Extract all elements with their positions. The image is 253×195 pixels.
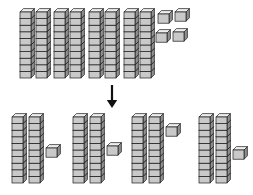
cube-front-face [105, 52, 116, 59]
cube-front-face [20, 25, 31, 32]
cube-front-face [36, 58, 47, 65]
cube-front-face [29, 170, 40, 177]
cube-front-face [105, 58, 116, 65]
cube-front-face [70, 12, 81, 19]
cube-front-face [36, 38, 47, 45]
cube-front-face [124, 19, 135, 26]
rod-segment [105, 9, 119, 19]
cube-front-face [70, 38, 81, 45]
cube-front-face [90, 124, 101, 131]
top-rod [89, 9, 103, 78]
rod-segment [70, 9, 84, 19]
cube-front-face [29, 117, 40, 124]
cube-front-face [20, 45, 31, 52]
rod-segment [216, 114, 230, 124]
cube-front-face [140, 65, 151, 72]
cube-front-face [124, 45, 135, 52]
cube-front-face [20, 19, 31, 26]
group-unit-cube [166, 124, 180, 137]
cube-front-face [124, 58, 135, 65]
cube-front-face [20, 71, 31, 78]
cube-front-face [216, 150, 227, 157]
top-rod-group [20, 9, 154, 78]
cube-front-face [124, 52, 135, 59]
cube-front-face [89, 12, 100, 19]
cube-front-face [216, 124, 227, 131]
cube-front-face [29, 150, 40, 157]
cube-front-face [70, 71, 81, 78]
rod-segment [36, 9, 50, 19]
cube-front-face [132, 124, 143, 131]
rod-segment [90, 114, 104, 124]
bottom-groups-quotient [12, 114, 247, 183]
cube-front-face [54, 32, 65, 39]
cube-front-face [216, 117, 227, 124]
cube-front-face [199, 163, 210, 170]
cube-front-face [140, 52, 151, 59]
top-rod [140, 9, 154, 78]
group-rod [12, 114, 26, 183]
cube-front-face [54, 58, 65, 65]
cube-front-face [70, 25, 81, 32]
cube-front-face [89, 32, 100, 39]
cube-front-face [140, 38, 151, 45]
quotient-group [12, 114, 60, 183]
group-rod [132, 114, 146, 183]
loose-unit-cube [158, 11, 172, 24]
cube-front-face [149, 117, 160, 124]
cube-front-face [90, 137, 101, 144]
cube-front-face [89, 65, 100, 72]
group-unit-cube [233, 147, 247, 160]
rod-segment [124, 9, 138, 19]
cube-front-face [36, 65, 47, 72]
cube-front-face [140, 71, 151, 78]
cube-front-face [70, 52, 81, 59]
cube-front-face [105, 25, 116, 32]
cube-front-face [36, 25, 47, 32]
cube-front-face [90, 163, 101, 170]
cube-front-face [105, 45, 116, 52]
rod-segment [89, 9, 103, 19]
cube-front-face [12, 143, 23, 150]
cube-front-face [149, 130, 160, 137]
cube-front-face [29, 157, 40, 164]
cube-front-face [54, 65, 65, 72]
cube-front-face [73, 130, 84, 137]
group-rod [149, 114, 163, 183]
loose-unit-cube [175, 9, 189, 22]
cube-front-face [124, 65, 135, 72]
cube-front-face [12, 124, 23, 131]
top-loose-cubes [156, 9, 189, 43]
cube-front-face [124, 25, 135, 32]
cube-front-face [46, 148, 57, 157]
top-set-dividend [20, 9, 189, 78]
cube-front-face [175, 12, 186, 21]
cube-front-face [89, 25, 100, 32]
cube-front-face [89, 45, 100, 52]
cube-front-face [54, 45, 65, 52]
cube-front-face [140, 12, 151, 19]
cube-front-face [89, 19, 100, 26]
cube-front-face [29, 176, 40, 183]
cube-front-face [73, 163, 84, 170]
cube-front-face [73, 170, 84, 177]
cube-front-face [70, 58, 81, 65]
cube-front-face [132, 163, 143, 170]
cube-front-face [12, 137, 23, 144]
cube-front-face [29, 130, 40, 137]
illustration-canvas [0, 0, 253, 195]
cube-front-face [89, 52, 100, 59]
group-rod [29, 114, 43, 183]
group-rod [199, 114, 213, 183]
cube-front-face [70, 45, 81, 52]
cube-front-face [89, 71, 100, 78]
cube-front-face [132, 117, 143, 124]
cube-front-face [216, 176, 227, 183]
loose-unit-cube [156, 30, 170, 43]
cube-front-face [132, 137, 143, 144]
cube-front-face [199, 117, 210, 124]
group-rod [90, 114, 104, 183]
cube-front-face [158, 14, 169, 23]
rod-segment [20, 9, 34, 19]
cube-front-face [149, 176, 160, 183]
